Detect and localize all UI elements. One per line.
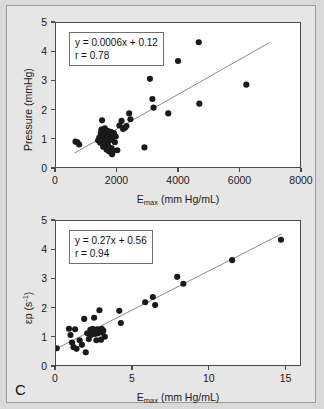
data-point: [196, 39, 202, 45]
data-point: [83, 349, 89, 355]
data-point: [76, 141, 82, 147]
y-tick-mark: [51, 219, 55, 220]
x-tick-mark: [54, 168, 55, 172]
x-tick-label: 4000: [166, 175, 189, 186]
y-tick-label: 5: [29, 17, 47, 28]
y-tick-label: 5: [29, 215, 47, 226]
data-point: [99, 117, 105, 123]
x-axis-title-base: E: [137, 193, 144, 205]
data-point: [174, 274, 180, 280]
correlation-pressure: r = 0.78: [75, 49, 158, 62]
data-point: [243, 82, 249, 88]
y-tick-mark: [51, 278, 55, 279]
data-point: [150, 294, 156, 300]
x-tick-mark: [285, 366, 286, 370]
data-point: [180, 281, 186, 287]
x-axis-title-base-2: E: [137, 391, 144, 403]
x-tick-label: 8000: [289, 175, 312, 186]
data-point: [152, 302, 158, 308]
y-tick-label: 0: [29, 361, 47, 372]
data-point: [147, 76, 153, 82]
x-tick-label: 10: [203, 373, 215, 384]
data-point: [196, 101, 202, 107]
data-point: [96, 307, 102, 313]
data-point: [67, 332, 73, 338]
data-point: [141, 144, 147, 150]
data-point: [118, 320, 124, 326]
x-tick-mark: [116, 168, 117, 172]
data-point: [74, 346, 80, 352]
data-point: [151, 105, 157, 111]
x-tick-mark: [208, 366, 209, 370]
panel-strain-rate: 012345051015 y = 0.27x + 0.56 r = 0.94 E…: [7, 206, 317, 404]
data-point: [119, 118, 125, 124]
data-point: [278, 237, 284, 243]
x-axis-title-sub-2: max: [144, 396, 158, 405]
data-point: [66, 326, 72, 332]
data-point: [123, 123, 129, 129]
x-tick-mark: [239, 168, 240, 172]
data-point: [126, 110, 132, 116]
y-tick-mark: [51, 109, 55, 110]
annotation-box-strain-rate: y = 0.27x + 0.56 r = 0.94: [69, 230, 153, 264]
y-tick-mark: [51, 138, 55, 139]
data-point: [175, 58, 181, 64]
x-tick-label: 0: [52, 373, 58, 384]
y-tick-mark: [51, 21, 55, 22]
regression-equation-strain-rate: y = 0.27x + 0.56: [75, 234, 147, 247]
x-tick-mark: [54, 366, 55, 370]
x-axis-title-rest: (mm Hg/mL): [158, 193, 219, 205]
x-axis-title-rest-2: (mm Hg/mL): [158, 391, 219, 403]
data-point: [102, 334, 108, 340]
y-tick-label: 1: [29, 332, 47, 343]
data-point: [112, 139, 118, 145]
y-tick-label: 0: [29, 163, 47, 174]
y-axis-title-strain-rate: εp (s-1): [23, 292, 34, 324]
data-point: [127, 116, 133, 122]
data-point: [72, 326, 78, 332]
figure-container: 01234502000400060008000 y = 0.0006x + 0.…: [6, 5, 316, 403]
y-tick-mark: [51, 307, 55, 308]
data-point: [116, 308, 122, 314]
y-tick-mark: [51, 51, 55, 52]
x-tick-mark: [300, 168, 301, 172]
x-axis-title-pressure: Emax (mm Hg/mL): [137, 194, 219, 205]
panel-pressure: 01234502000400060008000 y = 0.0006x + 0.…: [7, 6, 317, 206]
annotation-box-pressure: y = 0.0006x + 0.12 r = 0.78: [69, 32, 164, 66]
y-tick-label: 4: [29, 244, 47, 255]
y-tick-mark: [51, 249, 55, 250]
x-tick-label: 15: [280, 373, 292, 384]
data-point: [165, 110, 171, 116]
x-tick-label: 5: [129, 373, 135, 384]
y-axis-title-sup: -1: [21, 295, 30, 302]
data-point: [229, 257, 235, 263]
y-tick-label: 4: [29, 46, 47, 57]
data-point: [56, 345, 60, 351]
y-tick-label: 3: [29, 273, 47, 284]
data-point: [81, 316, 87, 322]
x-tick-mark: [177, 168, 178, 172]
x-tick-label: 6000: [228, 175, 251, 186]
y-tick-mark: [51, 80, 55, 81]
x-tick-label: 2000: [105, 175, 128, 186]
x-axis-title-strain-rate: Emax (mm Hg/mL): [137, 392, 219, 403]
data-point: [113, 133, 119, 139]
data-point: [149, 96, 155, 102]
data-point: [91, 315, 97, 321]
data-point: [100, 327, 106, 333]
data-point: [79, 342, 85, 348]
panel-letter: C: [15, 382, 26, 397]
data-point: [114, 147, 120, 153]
x-tick-label: 0: [52, 175, 58, 186]
y-axis-title-base: εp (s: [22, 302, 34, 324]
y-axis-title-pressure: Pressure (mmHg): [23, 68, 34, 151]
regression-equation-pressure: y = 0.0006x + 0.12: [75, 36, 158, 49]
correlation-strain-rate: r = 0.94: [75, 247, 147, 260]
x-tick-mark: [131, 366, 132, 370]
y-tick-mark: [51, 336, 55, 337]
data-point: [142, 299, 148, 305]
